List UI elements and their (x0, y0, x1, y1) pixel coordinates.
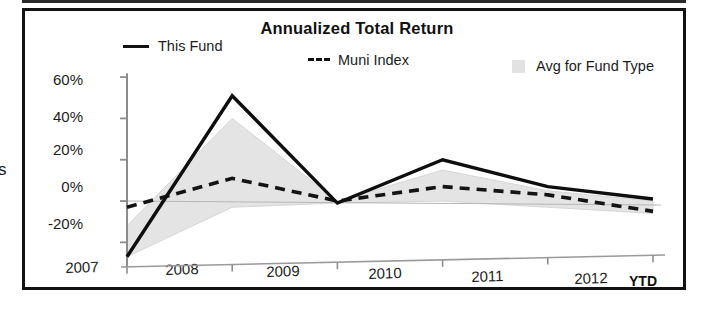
legend-item-this-fund: This Fund (123, 39, 222, 54)
screenshot-root: s Annualized Total Return This Fund Muni… (0, 0, 704, 310)
legend-label-muni-index: Muni Index (338, 53, 409, 68)
chart-title: Annualized Total Return (25, 19, 689, 38)
y-tick-label: 20% (21, 141, 83, 158)
x-tick-label: 2011 (471, 267, 504, 285)
x-tick-label: 2009 (266, 262, 300, 280)
chart-svg (113, 73, 663, 263)
series-area-avg-for-fund-type (127, 118, 653, 256)
page-top-rule (22, 0, 686, 3)
x-tick-label: 2010 (368, 264, 402, 282)
solid-line-swatch-icon (123, 45, 149, 48)
y-axis-ticks (120, 77, 127, 242)
plot-area (113, 73, 663, 263)
ytd-axis-label: YTD (629, 273, 657, 289)
chart-frame: Annualized Total Return This Fund Muni I… (22, 8, 686, 290)
y-tick-label: 40% (21, 108, 83, 125)
legend-item-avg-for-fund-type: Avg for Fund Type (512, 59, 654, 74)
x-tick-label: 2007 (65, 258, 99, 276)
y-tick-label: 0% (21, 178, 83, 195)
legend-label-avg-for-fund-type: Avg for Fund Type (536, 59, 654, 74)
filled-square-swatch-icon (512, 60, 525, 73)
y-tick-label: -20% (21, 215, 83, 232)
legend-item-muni-index: Muni Index (308, 53, 409, 68)
y-tick-label: 60% (21, 71, 83, 88)
dashed-line-swatch-icon (308, 58, 330, 61)
legend-label-this-fund: This Fund (158, 39, 222, 54)
x-tick-label: 2012 (574, 269, 608, 287)
cut-off-edge-glyph: s (0, 160, 7, 180)
